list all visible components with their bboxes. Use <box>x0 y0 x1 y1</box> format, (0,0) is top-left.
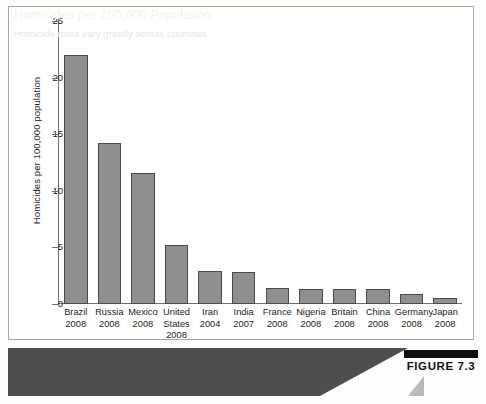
x-label-year: 2004 <box>193 319 227 331</box>
x-axis-label: Nigeria2008 <box>294 307 328 330</box>
x-label-year: 2008 <box>428 319 462 331</box>
bar-rect <box>433 298 457 304</box>
bar-rect <box>400 294 424 304</box>
bar-rect <box>266 288 290 304</box>
x-label-year: 2008 <box>160 330 194 342</box>
caption-subtitle: Homicide rates vary greatly across count… <box>14 28 209 39</box>
x-label-country: China <box>361 307 395 319</box>
x-axis-labels: Brazil2008Russia2008Mexico2008UnitedStat… <box>59 307 462 347</box>
bar-brazil[interactable] <box>64 21 88 304</box>
caption-bar <box>8 348 408 396</box>
bar-rect <box>64 55 88 304</box>
x-label-year: 2008 <box>93 319 127 331</box>
bar-rect <box>131 173 155 304</box>
bars-layer <box>59 21 462 304</box>
bar-rect <box>165 245 189 304</box>
x-label-country: United <box>160 307 194 319</box>
x-axis-label: Iran2004 <box>193 307 227 330</box>
bar-britain[interactable] <box>333 21 357 304</box>
x-axis-label: France2008 <box>261 307 295 330</box>
x-label-year: 2008 <box>395 319 429 331</box>
x-label-year: 2008 <box>361 319 395 331</box>
x-label-country: Russia <box>93 307 127 319</box>
bar-nigeria[interactable] <box>299 21 323 304</box>
badge-wedge-decoration <box>408 376 424 396</box>
y-axis-tick-mark <box>52 78 58 79</box>
x-label-year: 2008 <box>294 319 328 331</box>
x-label-country: Brazil <box>59 307 93 319</box>
x-label-country: India <box>227 307 261 319</box>
bar-rect <box>198 271 222 304</box>
x-axis-label: Russia2008 <box>93 307 127 330</box>
x-axis-label: UnitedStates2008 <box>160 307 194 342</box>
bar-rect <box>232 272 256 304</box>
x-label-year: 2007 <box>227 319 261 331</box>
plot-area: Homicides per 100,000 population 2520151… <box>9 7 475 341</box>
bar-united-states[interactable] <box>165 21 189 304</box>
x-label-country: States <box>160 319 194 331</box>
x-axis-label: China2008 <box>361 307 395 330</box>
y-axis-tick-mark <box>52 304 58 305</box>
x-label-year: 2008 <box>328 319 362 331</box>
figure-container: Homicides per 100,000 population 2520151… <box>0 0 486 404</box>
bar-japan[interactable] <box>433 21 457 304</box>
bar-france[interactable] <box>266 21 290 304</box>
x-label-country: Iran <box>193 307 227 319</box>
bar-india[interactable] <box>232 21 256 304</box>
x-label-year: 2008 <box>59 319 93 331</box>
bar-rect <box>366 289 390 304</box>
caption-title: Homicides per 100,000 Population <box>14 8 212 22</box>
y-axis-tick-mark <box>52 247 58 248</box>
x-label-country: Britain <box>328 307 362 319</box>
x-axis-label: Mexico2008 <box>126 307 160 330</box>
y-axis-tick-mark <box>52 134 58 135</box>
x-label-year: 2008 <box>261 319 295 331</box>
bar-germany[interactable] <box>400 21 424 304</box>
x-axis-label: Brazil2008 <box>59 307 93 330</box>
bar-rect <box>333 289 357 304</box>
bar-rect <box>98 143 122 304</box>
x-axis-label: Japan2008 <box>428 307 462 330</box>
bar-china[interactable] <box>366 21 390 304</box>
x-axis-label: Britain2008 <box>328 307 362 330</box>
x-label-country: Nigeria <box>294 307 328 319</box>
x-label-country: France <box>261 307 295 319</box>
chart-panel: Homicides per 100,000 population 2520151… <box>8 6 474 340</box>
bar-rect <box>299 289 323 304</box>
bar-iran[interactable] <box>198 21 222 304</box>
x-label-country: Mexico <box>126 307 160 319</box>
x-label-country: Japan <box>428 307 462 319</box>
figure-badge: FIGURE 7.3 <box>404 350 478 372</box>
x-axis-label: India2007 <box>227 307 261 330</box>
x-label-year: 2008 <box>126 319 160 331</box>
x-axis-label: Germany2008 <box>395 307 429 330</box>
x-label-country: Germany <box>395 307 429 319</box>
y-axis-tick-mark <box>52 191 58 192</box>
figure-badge-label: FIGURE 7.3 <box>404 360 478 372</box>
bar-russia[interactable] <box>98 21 122 304</box>
bar-mexico[interactable] <box>131 21 155 304</box>
figure-badge-rule <box>404 350 478 358</box>
